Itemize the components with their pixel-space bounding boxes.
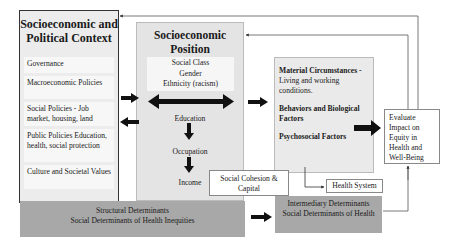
feedback-line-to-position <box>246 35 408 109</box>
arrow-structural-to-intermediary <box>251 212 272 222</box>
arrow-position-to-context <box>120 117 139 127</box>
arrow-position-to-intermediary <box>248 97 268 107</box>
arrow-education-to-occupation <box>184 123 194 140</box>
psychosocial-to-health-system-line <box>305 167 324 187</box>
connector-layer <box>0 0 452 248</box>
arrow-occupation-to-income <box>184 157 194 173</box>
double-arrow-stratification <box>148 94 234 109</box>
arrow-intermediary-to-evaluate <box>354 120 381 136</box>
feedback-line-to-context <box>120 16 418 109</box>
arrow-context-to-position <box>121 93 139 103</box>
feedback-line-to-intermediary-band <box>383 166 408 211</box>
